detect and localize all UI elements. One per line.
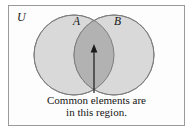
set-a-label: A [73, 16, 80, 28]
caption-line-2: in this region. [8, 107, 185, 119]
set-b-label: B [114, 16, 121, 28]
venn-diagram-figure: U A B Common elements are in this region… [0, 0, 193, 133]
caption-line-1: Common elements are [8, 95, 185, 107]
diagram-caption: Common elements are in this region. [8, 95, 185, 118]
